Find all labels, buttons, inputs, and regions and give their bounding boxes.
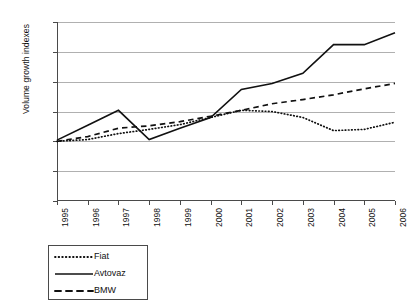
plot-area: [57, 22, 395, 201]
x-tick-label: 1997: [122, 208, 131, 227]
x-tick-label: 2005: [368, 208, 377, 227]
legend-item-bmw: BMW: [49, 282, 147, 299]
x-tick-label: 1995: [61, 208, 70, 227]
x-tick-mark: [241, 201, 242, 205]
x-tick-mark: [395, 201, 396, 205]
x-tick-mark: [303, 201, 304, 205]
x-tick-mark: [334, 201, 335, 205]
legend-label: Fiat: [94, 252, 109, 261]
x-tick-label: 2001: [245, 208, 254, 227]
chart-legend: FiatAvtovazBMW: [48, 245, 148, 300]
legend-label: Avtovaz: [94, 269, 126, 278]
x-tick-label: 2000: [215, 208, 224, 227]
x-tick-label: 1998: [153, 208, 162, 227]
x-tick-mark: [57, 201, 58, 205]
x-tick-label: 1999: [184, 208, 193, 227]
x-tick-mark: [364, 201, 365, 205]
series-line-avtovaz: [57, 33, 395, 140]
volume-growth-chart: Volume growth indexes 050100150200250300…: [0, 0, 419, 308]
x-tick-label: 2002: [276, 208, 285, 227]
x-tick-mark: [118, 201, 119, 205]
solid-line-icon: [54, 268, 94, 280]
dashed-line-icon: [54, 285, 94, 297]
x-tick-label: 2006: [399, 208, 408, 227]
series-lines: [57, 22, 395, 201]
x-tick-mark: [88, 201, 89, 205]
legend-label: BMW: [94, 286, 116, 295]
dotted-line-icon: [54, 251, 94, 263]
legend-item-fiat: Fiat: [49, 248, 147, 265]
series-line-bmw: [57, 83, 395, 141]
legend-item-avtovaz: Avtovaz: [49, 265, 147, 282]
x-tick-mark: [272, 201, 273, 205]
y-axis-title: Volume growth indexes: [21, 0, 31, 139]
x-tick-label: 2004: [338, 208, 347, 227]
x-tick-mark: [180, 201, 181, 205]
x-tick-label: 1996: [92, 208, 101, 227]
x-tick-mark: [149, 201, 150, 205]
x-tick-label: 2003: [307, 208, 316, 227]
x-tick-mark: [211, 201, 212, 205]
